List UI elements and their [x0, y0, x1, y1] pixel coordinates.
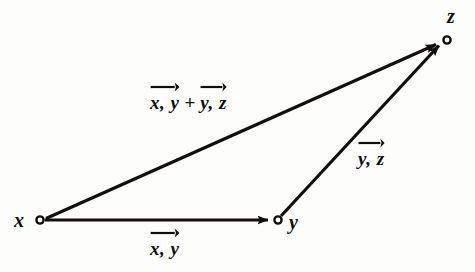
vector-term-text: y, z — [358, 148, 385, 169]
vector-term-text: y, z — [200, 92, 227, 113]
vector-overarrow-icon — [358, 138, 385, 148]
vector-term-y-z: y, z — [358, 138, 385, 168]
vector-term-x-y: x, y — [150, 82, 179, 112]
vertex-label-y: y — [289, 212, 298, 232]
vertex-label-z: z — [447, 6, 455, 26]
vertex-label-x: x — [14, 210, 24, 230]
vertex-x-dot — [36, 216, 43, 223]
edge-label-sum: x, y + y, z — [150, 82, 227, 113]
edge-y-to-z — [281, 46, 439, 217]
vertex-z-dot — [443, 36, 450, 43]
vertex-y-dot — [274, 216, 281, 223]
vector-addition-diagram: x y z x, y x, y + y, z — [0, 0, 475, 272]
diagram-canvas — [0, 0, 475, 272]
edge-x-to-z — [46, 45, 436, 219]
vector-term-text: x, y — [150, 238, 179, 259]
vector-term-y-z: y, z — [200, 82, 227, 112]
vector-term-x-y: x, y — [150, 228, 179, 258]
edge-label-x-y: x, y — [150, 228, 179, 259]
plus-operator: + — [179, 82, 200, 112]
vector-overarrow-icon — [150, 228, 179, 238]
vector-term-text: x, y — [150, 92, 179, 113]
vector-overarrow-icon — [200, 82, 227, 92]
edge-label-y-z: y, z — [358, 138, 385, 169]
vector-overarrow-icon — [150, 82, 179, 92]
edges-group — [45, 45, 439, 221]
